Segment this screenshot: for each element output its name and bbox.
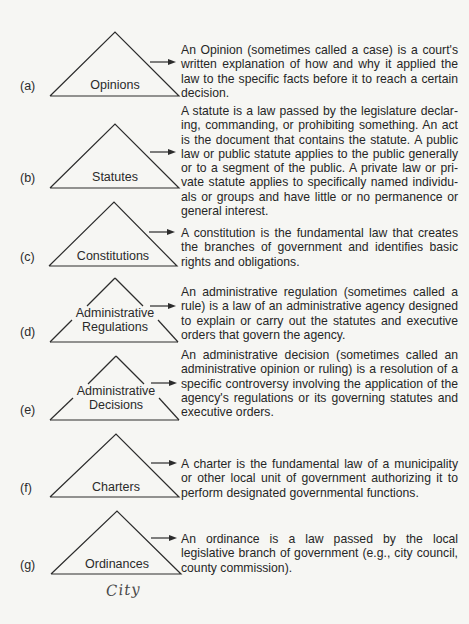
triangle-label: Constitutions	[58, 250, 168, 264]
handwritten-note: City	[106, 580, 142, 600]
item-description: A statute is a law passed by the legisla…	[181, 104, 458, 218]
triangle-label-line: Administrative	[60, 385, 172, 399]
right-arrow-icon	[151, 460, 177, 466]
triangle-label: Administrative Regulations	[60, 307, 170, 334]
item-letter: (a)	[20, 79, 35, 93]
item-letter: (c)	[20, 250, 35, 264]
triangle-label-line: Constitutions	[58, 250, 168, 264]
triangle-label-line: Administrative	[60, 307, 170, 321]
item-letter: (f)	[20, 481, 32, 495]
item-description: An administrative decision (sometimes ca…	[181, 348, 458, 419]
triangle-label: Administrative Decisions	[60, 385, 172, 412]
sources-of-law-diagram: (a) Opinions An Opinion (sometimes calle…	[0, 0, 469, 624]
triangle-label-line: Opinions	[60, 79, 170, 93]
triangle-label-line: Regulations	[60, 321, 170, 335]
item-description: An administrative regulation (sometimes …	[181, 285, 458, 342]
item-description: A charter is the fundamental law of a mu…	[181, 457, 458, 500]
item-letter: (e)	[20, 403, 35, 417]
item-letter: (b)	[20, 171, 35, 185]
triangle-label: Charters	[60, 481, 172, 495]
item-description: An ordinance is a law passed by the loca…	[181, 532, 458, 575]
triangle-label: Ordinances	[61, 558, 173, 572]
right-arrow-icon	[149, 229, 175, 235]
right-arrow-icon	[151, 535, 177, 541]
item-letter: (d)	[20, 325, 35, 339]
right-arrow-icon	[150, 59, 176, 65]
triangle-label-line: Statutes	[60, 171, 170, 185]
triangle-label-line: Ordinances	[61, 558, 173, 572]
right-arrow-icon	[150, 149, 176, 155]
triangle-label: Opinions	[60, 79, 170, 93]
triangle-label-line: Charters	[60, 481, 172, 495]
item-description: An Opinion (sometimes called a case) is …	[181, 43, 458, 100]
item-description: A constitution is the fundamental law th…	[181, 226, 458, 269]
triangle-label: Statutes	[60, 171, 170, 185]
item-letter: (g)	[20, 558, 35, 572]
triangle-label-line: Decisions	[60, 399, 172, 413]
